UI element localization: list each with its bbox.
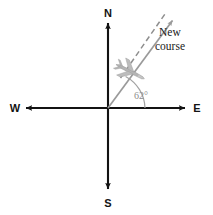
south-label: S bbox=[104, 197, 111, 209]
east-label: E bbox=[193, 102, 200, 114]
course-label-line2: course bbox=[155, 40, 185, 52]
compass-diagram: N S W E 62° New course bbox=[0, 0, 213, 215]
course-label-line1: New bbox=[159, 26, 181, 38]
north-label: N bbox=[104, 7, 112, 19]
angle-label: 62° bbox=[134, 90, 148, 101]
compass-svg: N S W E 62° New course bbox=[0, 0, 213, 215]
west-label: W bbox=[10, 102, 21, 114]
